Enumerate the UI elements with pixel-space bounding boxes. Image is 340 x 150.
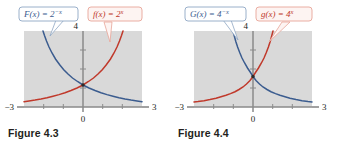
figure-pair: −3 3 0 4 F(x) = 2−x f(x) = 2x Figure 4.3	[0, 0, 340, 150]
x-max-label: 3	[152, 102, 157, 112]
figure-4-4: −3 3 0 4 G(x) = 4−x g(x) = 4x Figure 4.4	[170, 0, 340, 150]
red-callout-label: f(x) = 2x	[93, 8, 124, 19]
intersection-point	[81, 83, 84, 86]
y-max-label: 4	[244, 21, 249, 31]
x-origin-label: 0	[251, 114, 256, 124]
red-callout-label: g(x) = 4x	[261, 8, 294, 19]
intersection-point	[251, 75, 254, 78]
x-max-label: 3	[322, 102, 327, 112]
figure-caption: Figure 4.4	[178, 127, 229, 139]
y-max-label: 4	[74, 21, 79, 31]
x-min-label: −3	[4, 102, 14, 112]
x-origin-label: 0	[81, 114, 86, 124]
figure-4-3: −3 3 0 4 F(x) = 2−x f(x) = 2x Figure 4.3	[0, 0, 170, 150]
x-min-label: −3	[174, 102, 184, 112]
figure-caption: Figure 4.3	[8, 127, 59, 139]
